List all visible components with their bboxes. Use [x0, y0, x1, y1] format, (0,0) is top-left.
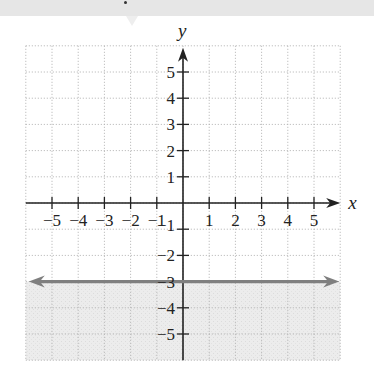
- y-tick-label: −1: [157, 216, 175, 235]
- coordinate-plane-chart: −5−4−3−2−11234554321−1−2−3−4−5xy: [0, 0, 374, 379]
- x-tick-label: 5: [310, 211, 319, 230]
- y-tick-label: 1: [167, 168, 176, 187]
- y-axis-label: y: [176, 20, 187, 41]
- x-tick-label: 1: [205, 211, 214, 230]
- x-axis-label: x: [347, 192, 357, 213]
- x-tick-label: 4: [284, 211, 293, 230]
- y-tick-label: −2: [157, 246, 175, 265]
- y-tick-label: −4: [157, 299, 176, 318]
- y-tick-label: 3: [167, 115, 176, 134]
- x-tick-label: −5: [43, 211, 61, 230]
- x-tick-label: −2: [122, 211, 140, 230]
- x-tick-label: −3: [95, 211, 113, 230]
- y-tick-label: 5: [167, 63, 176, 82]
- y-tick-label: −3: [157, 273, 175, 292]
- y-tick-label: 4: [167, 89, 176, 108]
- x-tick-label: 2: [231, 211, 240, 230]
- y-tick-label: 2: [167, 142, 176, 161]
- x-tick-label: −4: [69, 211, 88, 230]
- x-tick-label: 3: [257, 211, 266, 230]
- y-tick-label: −5: [157, 325, 175, 344]
